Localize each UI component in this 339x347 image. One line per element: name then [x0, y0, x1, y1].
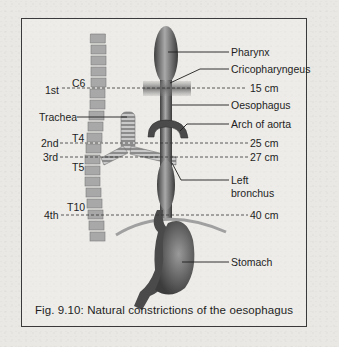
vertebra-t5: T5: [72, 162, 84, 173]
ordinal-1st: 1st: [45, 85, 59, 96]
distance-2nd: 25 cm: [250, 138, 279, 149]
label-left-bronchus-line1: Left: [231, 175, 249, 186]
ordinal-2nd: 2nd: [41, 138, 59, 149]
distance-3rd: 27 cm: [250, 152, 279, 163]
vertebra-c6: C6: [72, 78, 85, 89]
cricopharyngeus-band: [143, 81, 191, 96]
vertebra-t10: T10: [67, 202, 85, 213]
distance-1st: 15 cm: [250, 83, 279, 94]
ordinal-3rd: 3rd: [43, 152, 58, 163]
label-pharynx: Pharynx: [231, 47, 270, 58]
label-oesophagus: Oesophagus: [231, 100, 291, 111]
figure-caption: Fig. 9.10: Natural constrictions of the …: [21, 304, 307, 316]
vertebra-t4: T4: [72, 133, 84, 144]
label-cricopharyngeus: Cricopharyngeus: [231, 64, 310, 75]
stomach-shape: [134, 210, 194, 310]
ordinal-4th: 4th: [44, 210, 59, 221]
oesophagus-diagram: [0, 0, 339, 347]
label-arch-of-aorta: Arch of aorta: [231, 119, 291, 130]
label-stomach: Stomach: [231, 257, 272, 268]
label-left-bronchus-line2: bronchus: [231, 188, 274, 199]
vertebral-column: [85, 34, 106, 241]
label-trachea: Trachea: [39, 112, 77, 123]
distance-4th: 40 cm: [250, 210, 279, 221]
